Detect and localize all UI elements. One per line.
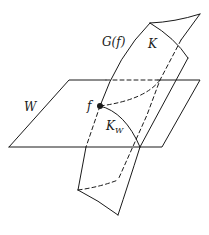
surface-g-f: [78, 14, 200, 215]
point-f-dot: [97, 103, 103, 109]
label-point-f: f: [87, 100, 91, 112]
label-graph-gf: G(f): [102, 36, 125, 48]
intersection-curve-kw: [100, 80, 160, 147]
label-plane-w: W: [24, 101, 36, 113]
label-kw-main: K: [106, 119, 115, 133]
label-kw-subscript: W: [115, 126, 123, 135]
label-intersection-kw: KW: [106, 120, 123, 135]
label-region-k: K: [148, 38, 157, 50]
plane-w: [9, 80, 200, 147]
